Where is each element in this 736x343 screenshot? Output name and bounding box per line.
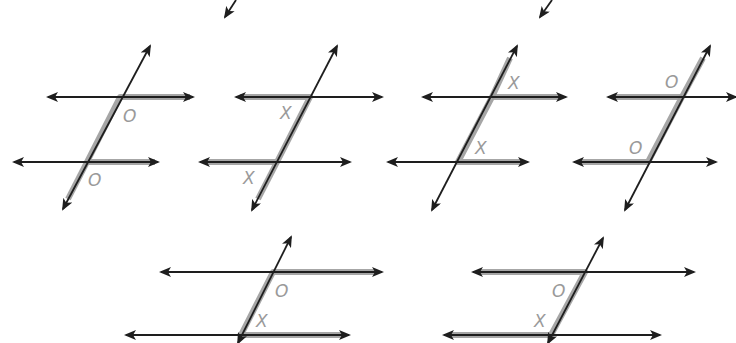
angle-diagram: OOXXXXOOOXOX: [0, 0, 736, 343]
angle-label: X: [474, 138, 487, 158]
transversal-line: [625, 46, 710, 210]
angle-highlight-fig-1: [87, 97, 190, 162]
line-layer: [14, 0, 736, 343]
partial-arrow: [225, 0, 236, 17]
angle-label: X: [242, 168, 255, 188]
angle-label: X: [507, 73, 520, 93]
angle-label: O: [552, 281, 565, 301]
angle-label: X: [255, 311, 268, 331]
angle-label: O: [123, 106, 136, 126]
transversal-line: [432, 46, 517, 210]
angle-label: O: [88, 170, 101, 190]
label-layer: OOXXXXOOOXOX: [88, 72, 678, 331]
angle-label: O: [629, 138, 642, 158]
angle-label: O: [665, 72, 678, 92]
angle-label: X: [533, 311, 546, 331]
angle-label: O: [275, 281, 288, 301]
highlight-layer: [68, 58, 703, 335]
transversal-line: [63, 46, 150, 209]
angle-label: X: [279, 103, 292, 123]
transversal-line: [252, 46, 337, 210]
partial-arrow: [540, 0, 552, 17]
